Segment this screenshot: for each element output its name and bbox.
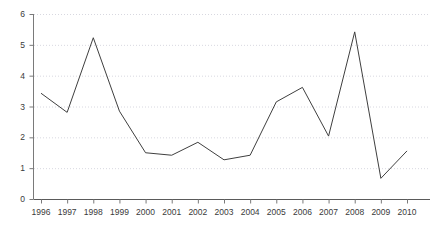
line-chart: 0123456 19961997199819992000200120022003… (0, 0, 438, 231)
y-axis-tick-label: 6 (5, 10, 25, 19)
data-series-line (41, 32, 407, 178)
y-axis-tick-label: 2 (5, 133, 25, 142)
y-axis-tick-label: 0 (5, 195, 25, 204)
x-axis-tick-label: 2010 (392, 208, 422, 217)
chart-plot-area (0, 0, 438, 231)
y-axis-tick-label: 4 (5, 72, 25, 81)
y-axis-tick-label: 5 (5, 41, 25, 50)
y-axis-tick-label: 3 (5, 103, 25, 112)
y-axis-ticks (30, 15, 34, 200)
x-axis-ticks (42, 200, 408, 204)
y-axis-tick-label: 1 (5, 164, 25, 173)
